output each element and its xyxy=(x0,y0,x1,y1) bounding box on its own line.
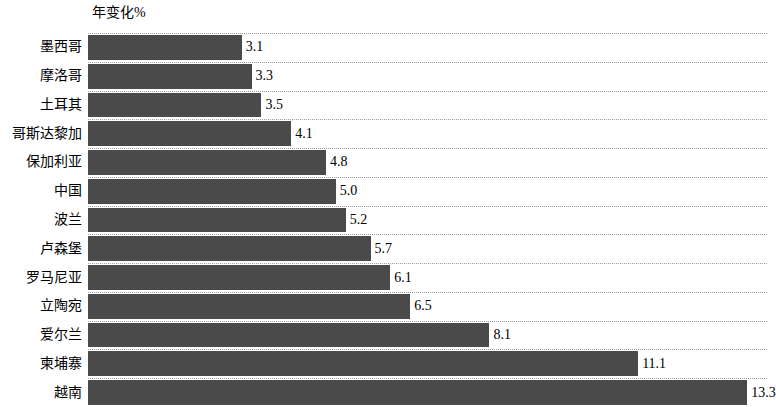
gridline xyxy=(88,33,767,34)
bar-value-label: 6.5 xyxy=(414,298,432,314)
category-label: 墨西哥 xyxy=(40,39,82,55)
category-label: 爱尔兰 xyxy=(40,327,82,343)
bar-row: 哥斯达黎加4.1 xyxy=(88,119,767,148)
gridline xyxy=(88,62,767,63)
gridline xyxy=(88,378,767,379)
bar-value-label: 13.3 xyxy=(751,385,776,401)
gridline xyxy=(88,148,767,149)
bar-row: 波兰5.2 xyxy=(88,206,767,235)
bar xyxy=(88,150,326,175)
bar-row: 立陶宛6.5 xyxy=(88,292,767,321)
bar-row: 墨西哥3.1 xyxy=(88,33,767,62)
gridline xyxy=(88,321,767,322)
gridline xyxy=(88,177,767,178)
bar-row: 保加利亚4.8 xyxy=(88,148,767,177)
bar-value-label: 6.1 xyxy=(394,270,412,286)
category-label: 越南 xyxy=(54,385,82,401)
category-label: 摩洛哥 xyxy=(40,68,82,84)
bar xyxy=(88,64,252,89)
bar xyxy=(88,208,346,233)
bar-value-label: 5.7 xyxy=(375,241,393,257)
bar xyxy=(88,35,242,60)
axis-title: 年变化% xyxy=(92,5,146,21)
bar xyxy=(88,351,638,376)
bar-value-label: 3.5 xyxy=(265,97,283,113)
bar-row: 柬埔寨11.1 xyxy=(88,349,767,378)
bar-value-label: 4.8 xyxy=(330,154,348,170)
bar-row: 土耳其3.5 xyxy=(88,91,767,120)
category-label: 立陶宛 xyxy=(40,298,82,314)
bar xyxy=(88,179,336,204)
bar-value-label: 5.2 xyxy=(350,212,368,228)
category-label: 柬埔寨 xyxy=(40,356,82,372)
category-label: 波兰 xyxy=(54,212,82,228)
gridline xyxy=(88,263,767,264)
bar xyxy=(88,294,410,319)
bar-value-label: 3.1 xyxy=(246,39,264,55)
gridline xyxy=(88,234,767,235)
bar-value-label: 5.0 xyxy=(340,183,358,199)
gridline xyxy=(88,119,767,120)
gridline xyxy=(88,292,767,293)
category-label: 卢森堡 xyxy=(40,241,82,257)
bar-row: 中国5.0 xyxy=(88,177,767,206)
bar-value-label: 3.3 xyxy=(256,68,274,84)
gridline xyxy=(88,91,767,92)
category-label: 罗马尼亚 xyxy=(26,270,82,286)
plot-area: 墨西哥3.1摩洛哥3.3土耳其3.5哥斯达黎加4.1保加利亚4.8中国5.0波兰… xyxy=(88,33,767,407)
bar-row: 摩洛哥3.3 xyxy=(88,62,767,91)
gridline xyxy=(88,349,767,350)
category-label: 土耳其 xyxy=(40,97,82,113)
category-label: 保加利亚 xyxy=(26,154,82,170)
category-label: 哥斯达黎加 xyxy=(12,126,82,142)
bar-value-label: 4.1 xyxy=(295,126,313,142)
bar xyxy=(88,236,371,261)
bar-value-label: 8.1 xyxy=(493,327,511,343)
category-label: 中国 xyxy=(54,183,82,199)
bar-row: 卢森堡5.7 xyxy=(88,234,767,263)
bar-row: 罗马尼亚6.1 xyxy=(88,263,767,292)
bar xyxy=(88,380,747,405)
bar xyxy=(88,121,291,146)
bar-value-label: 11.1 xyxy=(642,356,666,372)
gridline xyxy=(88,206,767,207)
bar xyxy=(88,265,390,290)
bar xyxy=(88,323,489,348)
bar-row: 爱尔兰8.1 xyxy=(88,321,767,350)
bar-row: 越南13.3 xyxy=(88,378,767,407)
bar xyxy=(88,93,261,118)
